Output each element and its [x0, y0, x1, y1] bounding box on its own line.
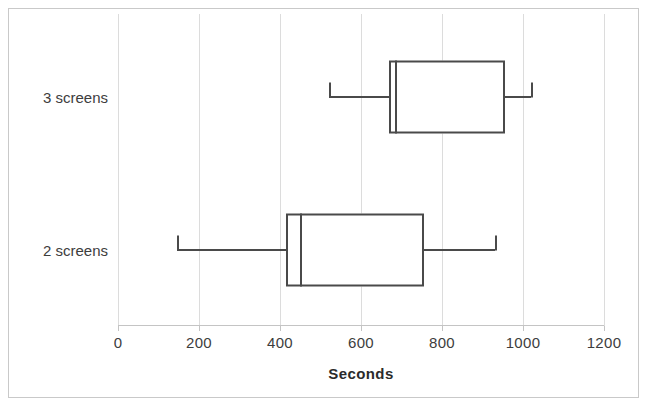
- gridline-400: [280, 14, 281, 326]
- category-axis-labels: 3 screens 2 screens: [14, 14, 108, 326]
- x-tick-600: [361, 326, 362, 331]
- x-tick-label-1200: 1200: [587, 334, 622, 351]
- min-cap-2-screens: [177, 236, 179, 251]
- x-tick-label-800: 800: [429, 334, 455, 351]
- median-2-screens: [300, 214, 302, 287]
- x-tick-200: [199, 326, 200, 331]
- box-plot-figure: 3 screens 2 screens 02004006008001000120…: [0, 0, 647, 406]
- median-3-screens: [395, 61, 397, 134]
- x-tick-0: [118, 326, 119, 331]
- x-tick-label-400: 400: [267, 334, 293, 351]
- lower-whisker-3-screens: [329, 96, 390, 98]
- x-tick-label-1000: 1000: [506, 334, 541, 351]
- x-tick-label-600: 600: [348, 334, 374, 351]
- x-tick-label-0: 0: [114, 334, 123, 351]
- lower-whisker-2-screens: [177, 249, 286, 251]
- min-cap-3-screens: [329, 83, 331, 98]
- x-tick-1200: [604, 326, 605, 331]
- box-3-screens: [389, 61, 504, 134]
- gridline-0: [118, 14, 119, 326]
- gridline-1200: [604, 14, 605, 326]
- upper-whisker-2-screens: [424, 249, 495, 251]
- box-2-screens: [286, 214, 424, 287]
- x-tick-1000: [523, 326, 524, 331]
- gridline-200: [199, 14, 200, 326]
- category-label-3-screens: 3 screens: [43, 89, 108, 106]
- gridline-1000: [523, 14, 524, 326]
- x-tick-400: [280, 326, 281, 331]
- plot-area: [118, 14, 604, 326]
- max-cap-2-screens: [495, 236, 497, 251]
- max-cap-3-screens: [531, 83, 533, 98]
- upper-whisker-3-screens: [505, 96, 531, 98]
- x-axis-title: Seconds: [118, 365, 604, 382]
- x-tick-800: [442, 326, 443, 331]
- x-tick-label-200: 200: [186, 334, 212, 351]
- category-label-2-screens: 2 screens: [43, 242, 108, 259]
